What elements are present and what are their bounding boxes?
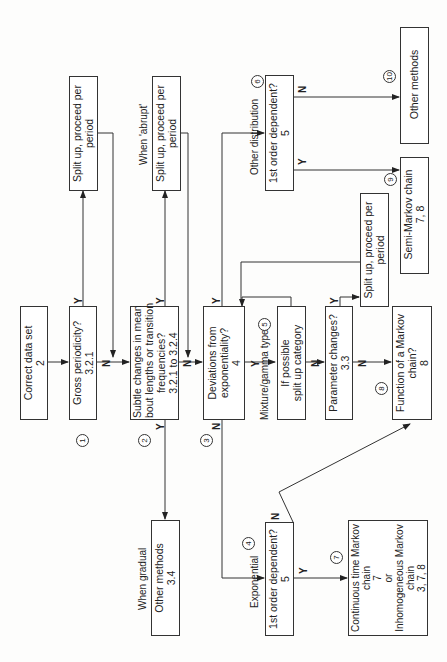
- label-exponential: Exponential: [249, 556, 260, 608]
- branch-no-first-order-exp: N: [270, 513, 281, 520]
- number-text: 2: [140, 438, 149, 442]
- node-semi-markov-text: Semi-Markov chain 7, 8: [402, 158, 426, 271]
- number-text: 3: [202, 438, 211, 442]
- label: chain: [361, 522, 372, 634]
- branch-yes-subtle-down: Y: [155, 423, 166, 430]
- branch-no-parameter: N: [357, 360, 368, 367]
- branch-no-if-possible: N: [310, 360, 321, 367]
- branch-no-deviations: N: [211, 423, 222, 430]
- label: 1st order dependent?: [267, 77, 279, 189]
- branch-yes-deviations-right: Y: [250, 360, 261, 367]
- label: split up category: [291, 308, 303, 418]
- label: Gross periodicity?: [71, 308, 83, 418]
- circled-number-5: 5: [258, 318, 271, 331]
- branch-no-gross: N: [101, 360, 112, 367]
- label: Function of a Markov: [394, 308, 406, 418]
- branch-no-subtle: N: [182, 360, 193, 367]
- label: 5: [279, 524, 291, 634]
- label: 3, 7, 8: [416, 522, 427, 634]
- number-text: 6: [253, 79, 262, 83]
- label-mixture-gamma: Mixture/gamma type: [259, 329, 270, 420]
- number-text: 10: [385, 72, 394, 81]
- label: 3.4: [165, 522, 177, 634]
- node-deviations-text: Deviations from exponentiality? 4: [206, 308, 242, 418]
- label: Semi-Markov chain: [402, 158, 414, 271]
- label: Split up, proceed per: [362, 195, 374, 305]
- flowchart-canvas: Correct data set 2 Gross periodicity? 3.…: [0, 0, 447, 662]
- node-if-possible-text: If possible split up category: [279, 308, 303, 418]
- node-subtle-changes-text: Subtle changes in mean bout lengths or t…: [131, 308, 179, 418]
- branch-yes-first-order-other: Y: [297, 158, 308, 165]
- label: bout lengths or transition: [143, 308, 155, 418]
- label: If possible: [279, 308, 291, 418]
- label: chain: [405, 522, 416, 634]
- label: frequencies?: [155, 308, 167, 418]
- label: 3.3: [339, 308, 351, 418]
- label: Correct data set: [22, 308, 34, 418]
- circled-number-4: 4: [242, 537, 255, 550]
- branch-yes-gross: Y: [73, 297, 84, 304]
- node-split-up-1-text: Split up, proceed per period: [71, 78, 95, 189]
- label: Inhomogeneous Markov: [394, 522, 405, 634]
- label: Split up, proceed per: [154, 78, 166, 189]
- label: or: [383, 522, 394, 634]
- number-text: 1: [78, 438, 87, 442]
- node-other-methods-10-text: Other methods: [408, 28, 420, 141]
- label: Split up, proceed per: [71, 78, 83, 189]
- node-first-order-exp-text: 1st order dependent? 5: [267, 524, 291, 634]
- number-text: 8: [377, 386, 386, 390]
- node-correct-data-set-text: Correct data set 2: [22, 308, 46, 418]
- label: period: [83, 78, 95, 189]
- label: Other methods: [408, 28, 420, 141]
- node-gross-periodicity-text: Gross periodicity? 3.2.1: [71, 308, 95, 418]
- label: 4: [230, 308, 242, 418]
- label-other-distribution: Other distribution: [249, 99, 260, 175]
- node-split-up-2-text: Split up, proceed per period: [154, 78, 178, 189]
- label: exponentiality?: [218, 308, 230, 418]
- label-when-gradual: When gradual: [137, 548, 148, 610]
- label: 7, 8: [414, 158, 426, 271]
- label: chain?: [406, 308, 418, 418]
- branch-no-first-order-other: N: [297, 86, 308, 93]
- number-text: 9: [386, 177, 395, 181]
- label: Parameter changes?: [327, 308, 339, 418]
- node-split-up-3-text: Split up, proceed per period: [362, 195, 386, 305]
- node-function-markov-text: Function of a Markov chain? 8: [394, 308, 430, 418]
- circled-number-2: 2: [138, 434, 151, 447]
- circled-number-6: 6: [251, 75, 264, 88]
- branch-yes-first-order-exp: Y: [298, 567, 309, 574]
- number-text: 7: [332, 555, 341, 559]
- circled-number-9: 9: [384, 173, 397, 186]
- label: Other methods: [153, 522, 165, 634]
- label: 5: [279, 77, 291, 189]
- label: 8: [418, 308, 430, 418]
- branch-yes-parameter: Y: [329, 297, 340, 304]
- circled-number-3: 3: [200, 434, 213, 447]
- label: Deviations from: [206, 308, 218, 418]
- label: Subtle changes in mean: [131, 308, 143, 418]
- label: 3.2.1: [83, 308, 95, 418]
- circled-number-7: 7: [330, 551, 343, 564]
- label: 3.2.1 to 3.2.4: [167, 308, 179, 418]
- label: Continuous time Markov: [350, 522, 361, 634]
- node-first-order-other-text: 1st order dependent? 5: [267, 77, 291, 189]
- label: period: [374, 195, 386, 305]
- circled-number-1: 1: [76, 434, 89, 447]
- node-parameter-text: Parameter changes? 3.3: [327, 308, 351, 418]
- branch-yes-deviations: Y: [211, 297, 222, 304]
- number-text: 5: [260, 322, 269, 326]
- label-when-abrupt: When 'abrupt': [138, 104, 149, 165]
- node-other-methods-3-4-text: Other methods 3.4: [153, 522, 177, 634]
- circled-number-8: 8: [375, 382, 388, 395]
- branch-yes-subtle: Y: [155, 297, 166, 304]
- node-continuous-text: Continuous time Markov chain 7 or Inhomo…: [350, 522, 427, 634]
- number-text: 4: [244, 541, 253, 545]
- label: 7: [372, 522, 383, 634]
- label: 2: [34, 308, 46, 418]
- label: 1st order dependent?: [267, 524, 279, 634]
- label: period: [166, 78, 178, 189]
- circled-number-10: 10: [383, 70, 396, 83]
